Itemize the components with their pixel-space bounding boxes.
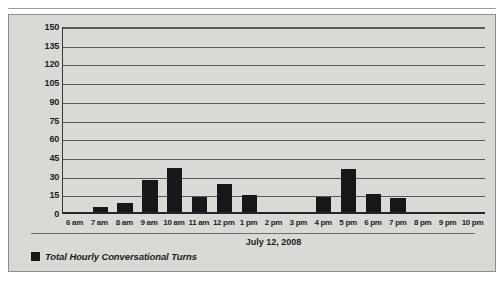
page-top-divider: [8, 8, 496, 9]
y-axis-tick-label: 90: [13, 97, 59, 107]
legend-divider: [31, 233, 475, 234]
x-axis-tick-label: 10 pm: [460, 218, 485, 227]
bar-slot: [361, 27, 386, 214]
bar-slot: [435, 27, 460, 214]
bar-slot: [460, 27, 485, 214]
x-axis-tick-label: 8 pm: [410, 218, 435, 227]
bar-slot: [187, 27, 212, 214]
bar-slot: [411, 27, 436, 214]
bar: [142, 180, 157, 214]
x-axis-tick-label: 12 pm: [211, 218, 236, 227]
x-axis-tick-label: 7 pm: [385, 218, 410, 227]
y-axis-labels: 0153045607590105120135150: [9, 27, 59, 214]
y-axis-tick-label: 135: [13, 41, 59, 51]
y-axis-tick-label: 0: [13, 209, 59, 219]
x-axis-title: July 12, 2008: [62, 237, 485, 247]
x-axis-tick-label: 10 am: [162, 218, 187, 227]
bar-slot: [262, 27, 287, 214]
plot-area: [62, 27, 485, 214]
chart-legend: Total Hourly Conversational Turns: [31, 251, 197, 262]
bar-slot: [63, 27, 88, 214]
x-axis-tick-label: 5 pm: [336, 218, 361, 227]
x-axis-tick-label: 6 pm: [361, 218, 386, 227]
bar-slot: [162, 27, 187, 214]
y-axis-tick-label: 105: [13, 78, 59, 88]
y-axis-tick-label: 15: [13, 190, 59, 200]
chart-figure: 0153045607590105120135150 6 am7 am8 am9 …: [8, 14, 496, 272]
x-axis-tick-label: 2 pm: [261, 218, 286, 227]
y-axis-tick-label: 30: [13, 172, 59, 182]
x-axis-tick-label: 6 am: [62, 218, 87, 227]
bar-slot: [386, 27, 411, 214]
legend-label: Total Hourly Conversational Turns: [45, 251, 197, 262]
bar-slot: [237, 27, 262, 214]
x-axis-labels: 6 am7 am8 am9 am10 am11 am12 pm1 pm2 pm3…: [62, 218, 485, 227]
bar-slot: [311, 27, 336, 214]
x-axis-tick-label: 11 am: [186, 218, 211, 227]
x-axis-tick-label: 9 pm: [435, 218, 460, 227]
legend-color-swatch: [31, 252, 40, 261]
x-axis-tick-label: 8 am: [112, 218, 137, 227]
bar-slot: [88, 27, 113, 214]
x-axis-tick-label: 3 pm: [286, 218, 311, 227]
y-axis-tick-label: 60: [13, 134, 59, 144]
chart-page: 0153045607590105120135150 6 am7 am8 am9 …: [0, 0, 504, 287]
y-axis-tick-label: 150: [13, 22, 59, 32]
bar: [167, 168, 182, 214]
bar: [341, 169, 356, 214]
x-axis-tick-label: 4 pm: [311, 218, 336, 227]
bar-slot: [286, 27, 311, 214]
bar: [217, 184, 232, 214]
bar-slot: [137, 27, 162, 214]
y-axis-tick-label: 120: [13, 59, 59, 69]
x-axis-tick-label: 7 am: [87, 218, 112, 227]
x-axis-tick-label: 1 pm: [236, 218, 261, 227]
y-axis-tick-label: 45: [13, 153, 59, 163]
bar-slot: [113, 27, 138, 214]
y-axis-tick-label: 75: [13, 116, 59, 126]
bar-slot: [212, 27, 237, 214]
x-axis-line: [63, 212, 485, 214]
x-axis-tick-label: 9 am: [137, 218, 162, 227]
bar-slot: [336, 27, 361, 214]
bar: [366, 194, 381, 214]
bar-series: [63, 27, 485, 214]
